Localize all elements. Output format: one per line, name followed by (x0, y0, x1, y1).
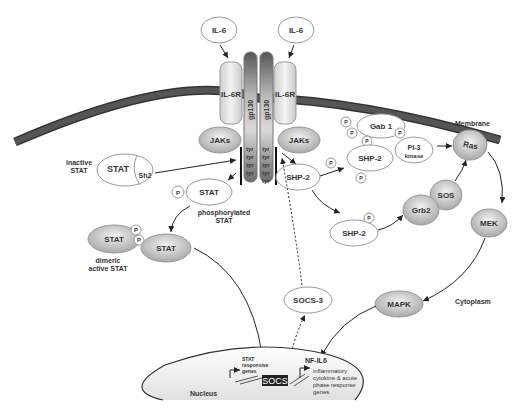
svg-text:STAT: STAT (104, 235, 124, 244)
arrow-receptor-to-shp2 (282, 153, 296, 164)
arrow-il6-left (220, 45, 228, 58)
svg-text:IL-6: IL-6 (289, 26, 304, 35)
il6-pathway-diagram: Membrane IL-6 IL-6 IL-6R IL-6R gp130 gp1… (0, 0, 520, 414)
arrow-pstat-to-dimer (171, 206, 190, 232)
svg-text:P: P (137, 237, 141, 243)
svg-text:active STAT: active STAT (88, 265, 128, 272)
arrow-stat-to-receptor (155, 160, 236, 173)
arrow-shp2-to-shp2-lower (312, 190, 340, 213)
svg-text:STAT: STAT (70, 167, 88, 174)
arrow-mek-to-mapk (423, 238, 485, 301)
arrow-dimer-to-nucleus (194, 248, 262, 354)
shp2-lower: SHP-2 P (330, 213, 378, 246)
inactive-stat-label: inactive (66, 159, 92, 166)
svg-text:SHP-2: SHP-2 (286, 173, 310, 182)
svg-text:JAKs: JAKs (289, 136, 310, 145)
arrow-shp2-to-grb2 (378, 215, 403, 230)
pi3-kinase: PI-3 kinase (395, 137, 433, 163)
arrow-receptor-to-pstat (228, 173, 236, 180)
svg-text:SOS: SOS (438, 191, 456, 200)
svg-text:MAPK: MAPK (387, 300, 411, 309)
nucleus-label: Nucleus (190, 390, 217, 397)
mek: MEK (471, 209, 507, 237)
svg-text:SOCS-3: SOCS-3 (293, 296, 323, 305)
svg-text:tyr: tyr (262, 178, 270, 184)
svg-text:P: P (176, 190, 180, 196)
shp2-upper: SHP-2 P P (326, 145, 393, 183)
membrane-label: Membrane (455, 120, 490, 127)
svg-text:cytokine & acute: cytokine & acute (313, 375, 358, 381)
svg-text:MEK: MEK (480, 219, 498, 228)
ras: Ras (453, 130, 487, 160)
svg-text:SHP-2: SHP-2 (358, 154, 382, 163)
shp2-main: SHP-2 (276, 164, 320, 190)
svg-text:tyr: tyr (246, 162, 254, 168)
il6-ligand-right: IL-6 (278, 17, 314, 43)
inactive-stat: STAT Sh2 (97, 154, 153, 186)
svg-text:SOCS: SOCS (262, 376, 288, 386)
svg-text:JAKs: JAKs (210, 136, 231, 145)
gab1: Gab 1 P P P P (341, 114, 405, 146)
il6-ligand-left: IL-6 (201, 17, 237, 43)
arrow-mapk-to-nfil6 (321, 306, 376, 356)
arrow-il6-right (289, 45, 294, 58)
svg-text:IL-6R: IL-6R (275, 90, 295, 99)
socs-gene: SOCS (262, 375, 288, 386)
cytoplasm-label: Cytoplasm (455, 298, 491, 306)
arrow-sos-to-ras (455, 160, 466, 181)
svg-text:gp130: gp130 (247, 100, 255, 120)
svg-text:IL-6R: IL-6R (221, 90, 241, 99)
svg-text:Gab 1: Gab 1 (370, 122, 393, 131)
nfil6-label: NF-IL6 (305, 357, 327, 364)
svg-text:STAT: STAT (156, 244, 176, 253)
phosphorylated-stat: P STAT (172, 179, 232, 205)
grb2: Grb2 (403, 195, 439, 225)
svg-text:kinase: kinase (405, 153, 424, 159)
mapk: MAPK (375, 291, 423, 317)
svg-text:STAT: STAT (199, 188, 219, 197)
svg-text:P: P (134, 227, 138, 233)
svg-text:phase response: phase response (313, 382, 356, 388)
svg-text:gp130: gp130 (263, 100, 271, 120)
svg-text:tyr: tyr (246, 154, 254, 160)
svg-text:phosphorylated: phosphorylated (198, 209, 251, 217)
svg-text:PI-3: PI-3 (408, 144, 421, 151)
jaks-right: JAKs (278, 127, 320, 153)
socs3: SOCS-3 (284, 287, 332, 313)
svg-text:STAT: STAT (215, 217, 233, 224)
svg-text:tyr: tyr (246, 146, 254, 152)
svg-text:Sh2: Sh2 (139, 172, 152, 179)
svg-text:tyr: tyr (262, 146, 270, 152)
il6r-receptor-right: IL-6R (274, 62, 296, 124)
svg-text:tyr: tyr (262, 162, 270, 168)
jaks-left: JAKs (199, 127, 241, 153)
arrow-shp2-to-shp2 (320, 168, 344, 176)
svg-text:IL-6: IL-6 (212, 26, 227, 35)
svg-text:tyr: tyr (262, 170, 270, 176)
svg-text:genes: genes (313, 389, 329, 395)
svg-text:tyr: tyr (262, 154, 270, 160)
svg-text:inflammatory: inflammatory (313, 368, 347, 374)
svg-text:dimeric: dimeric (96, 257, 121, 264)
svg-text:SHP-2: SHP-2 (342, 229, 366, 238)
il6r-receptor-left: IL-6R (220, 62, 242, 124)
svg-text:genes: genes (242, 368, 257, 374)
svg-text:tyr: tyr (246, 170, 254, 176)
svg-text:STAT: STAT (107, 164, 130, 174)
arrow-ras-to-mek (488, 152, 502, 203)
svg-text:Grb2: Grb2 (412, 206, 431, 215)
